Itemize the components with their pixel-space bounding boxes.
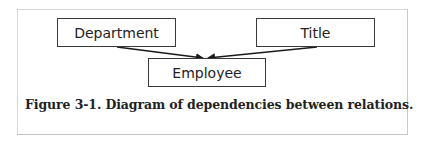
node-employee-label: Employee [172, 65, 241, 81]
node-department: Department [57, 18, 176, 47]
node-employee: Employee [148, 58, 266, 87]
edge-department-employee [117, 47, 203, 58]
node-title-label: Title [300, 25, 330, 41]
edge-title-employee [208, 47, 317, 58]
node-department-label: Department [74, 25, 159, 41]
node-title: Title [256, 18, 375, 47]
figure-caption: Figure 3-1. Diagram of dependencies betw… [25, 97, 413, 112]
